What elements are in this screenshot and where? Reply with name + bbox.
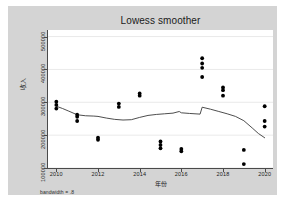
data-point: [200, 75, 204, 79]
scatter-points: [54, 56, 266, 166]
data-point: [221, 88, 225, 92]
bandwidth-footnote: bandwidth = .8: [40, 189, 74, 195]
data-point: [75, 119, 79, 123]
x-tick-mark: [56, 169, 57, 172]
x-axis-line: [47, 168, 273, 169]
y-tick-label: 400000: [40, 64, 46, 84]
graph-region: Lowess smoother 收入 100000200000300000400…: [8, 6, 277, 195]
y-axis-title: 收入: [18, 78, 27, 90]
data-point: [200, 66, 204, 70]
x-tick-mark: [98, 169, 99, 172]
y-tick-label: 100000: [40, 162, 46, 182]
data-point: [242, 162, 246, 166]
data-point: [138, 94, 142, 98]
data-point: [54, 107, 58, 111]
data-point: [263, 104, 267, 108]
x-tick-mark: [181, 169, 182, 172]
lowess-line: [56, 106, 264, 138]
y-tick-label: 500000: [40, 31, 46, 51]
x-axis-title: 年份: [48, 179, 273, 188]
data-point: [96, 138, 100, 142]
data-point: [242, 148, 246, 152]
chart-screenshot: Lowess smoother 收入 100000200000300000400…: [0, 0, 285, 201]
data-point: [117, 102, 121, 106]
data-point: [117, 105, 121, 109]
data-point: [54, 103, 58, 107]
data-point: [159, 143, 163, 147]
y-tick-label: 200000: [40, 130, 46, 150]
data-point: [221, 94, 225, 98]
y-tick-label: 300000: [40, 97, 46, 117]
data-point: [200, 56, 204, 60]
data-point: [54, 100, 58, 104]
plot-canvas: [48, 30, 273, 168]
x-tick-mark: [140, 169, 141, 172]
data-point: [179, 149, 183, 153]
data-point: [159, 139, 163, 143]
data-point: [75, 115, 79, 119]
x-tick-mark: [223, 169, 224, 172]
x-tick-mark: [265, 169, 266, 172]
data-point: [200, 62, 204, 66]
plot-area: [48, 30, 273, 168]
data-point: [263, 119, 267, 123]
chart-title: Lowess smoother: [48, 15, 273, 26]
data-point: [159, 146, 163, 150]
data-point: [263, 125, 267, 129]
